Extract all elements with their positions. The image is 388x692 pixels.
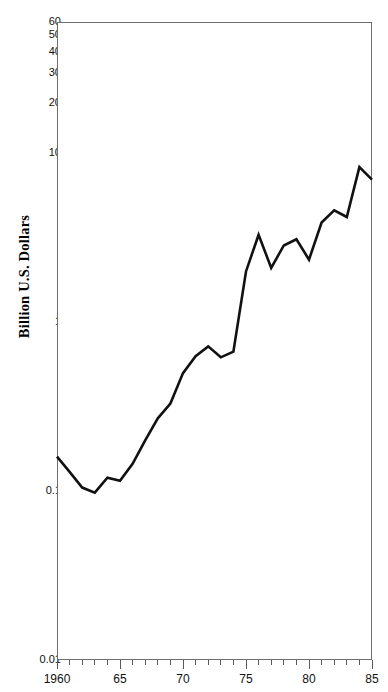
tick-mark bbox=[208, 660, 209, 665]
chart-figure: Billion U.S. Dollars 60504030201010.10.0… bbox=[0, 0, 388, 692]
tick-mark bbox=[296, 660, 297, 665]
x-tick-label: 65 bbox=[113, 672, 126, 686]
tick-mark bbox=[69, 660, 70, 665]
tick-mark bbox=[183, 660, 184, 669]
tick-mark bbox=[120, 660, 121, 669]
x-tick-label: 85 bbox=[365, 672, 378, 686]
tick-mark bbox=[195, 660, 196, 665]
tick-mark bbox=[107, 660, 108, 665]
x-tick-label: 70 bbox=[176, 672, 189, 686]
tick-mark bbox=[346, 660, 347, 665]
tick-mark bbox=[359, 660, 360, 665]
tick-mark bbox=[271, 660, 272, 665]
tick-mark bbox=[132, 660, 133, 665]
tick-mark bbox=[258, 660, 259, 665]
x-tick-label: 75 bbox=[239, 672, 252, 686]
tick-mark bbox=[233, 660, 234, 665]
data-series-line bbox=[57, 22, 372, 660]
x-tick-label: 1960 bbox=[44, 672, 71, 686]
tick-mark bbox=[309, 660, 310, 669]
tick-mark bbox=[220, 660, 221, 665]
x-tick-label: 80 bbox=[302, 672, 315, 686]
tick-mark bbox=[94, 660, 95, 665]
tick-mark bbox=[372, 660, 373, 669]
tick-mark bbox=[321, 660, 322, 665]
y-axis-title: Billion U.S. Dollars bbox=[16, 167, 33, 387]
tick-mark bbox=[145, 660, 146, 665]
tick-mark bbox=[57, 660, 58, 669]
tick-mark bbox=[82, 660, 83, 665]
tick-mark bbox=[246, 660, 247, 669]
tick-mark bbox=[170, 660, 171, 665]
tick-mark bbox=[157, 660, 158, 665]
tick-mark bbox=[283, 660, 284, 665]
tick-mark bbox=[334, 660, 335, 665]
